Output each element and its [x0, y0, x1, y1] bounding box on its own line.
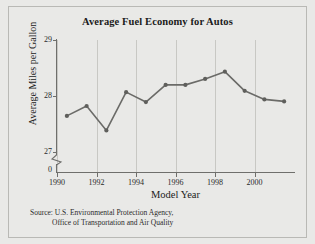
data-point	[262, 97, 266, 101]
data-point	[104, 128, 108, 132]
chart-title: Average Fuel Economy for Autos	[0, 16, 315, 27]
x-tick-mark	[57, 173, 58, 177]
y-axis-title: Average Miles per Gallon	[27, 4, 38, 144]
chart-figure: Average Fuel Economy for Autos 29 28 27 …	[0, 0, 315, 244]
data-point	[164, 83, 168, 87]
data-point	[282, 99, 286, 103]
data-series-line	[57, 40, 294, 172]
x-tick-label-1990: 1990	[37, 178, 77, 187]
y-tick-label-0: 0	[12, 165, 52, 174]
source-line-2: Office of Transportation and Air Quality	[30, 218, 173, 228]
x-tick-mark	[97, 173, 98, 177]
x-tick-label-1998: 1998	[195, 178, 235, 187]
data-point	[243, 89, 247, 93]
data-point	[85, 104, 89, 108]
data-point	[65, 114, 69, 118]
data-point	[144, 100, 148, 104]
x-tick-mark	[215, 173, 216, 177]
source-note: Source: U.S. Environmental Protection Ag…	[30, 208, 173, 228]
data-point	[124, 90, 128, 94]
data-point-markers	[65, 70, 286, 133]
x-tick-label-1994: 1994	[116, 178, 156, 187]
source-line-1: Source: U.S. Environmental Protection Ag…	[30, 208, 173, 218]
data-point	[223, 70, 227, 74]
y-tick-mark	[53, 152, 57, 153]
x-axis-title: Model Year	[57, 189, 294, 200]
y-tick-label-27: 27	[12, 147, 52, 156]
y-tick-mark	[53, 40, 57, 41]
y-tick-mark	[53, 96, 57, 97]
data-point	[203, 77, 207, 81]
data-point	[183, 83, 187, 87]
x-tick-mark	[255, 173, 256, 177]
x-tick-mark	[136, 173, 137, 177]
x-tick-label-1996: 1996	[156, 178, 196, 187]
x-tick-mark	[176, 173, 177, 177]
x-tick-label-1992: 1992	[77, 178, 117, 187]
plot-area	[57, 40, 294, 172]
x-tick-label-2000: 2000	[235, 178, 275, 187]
